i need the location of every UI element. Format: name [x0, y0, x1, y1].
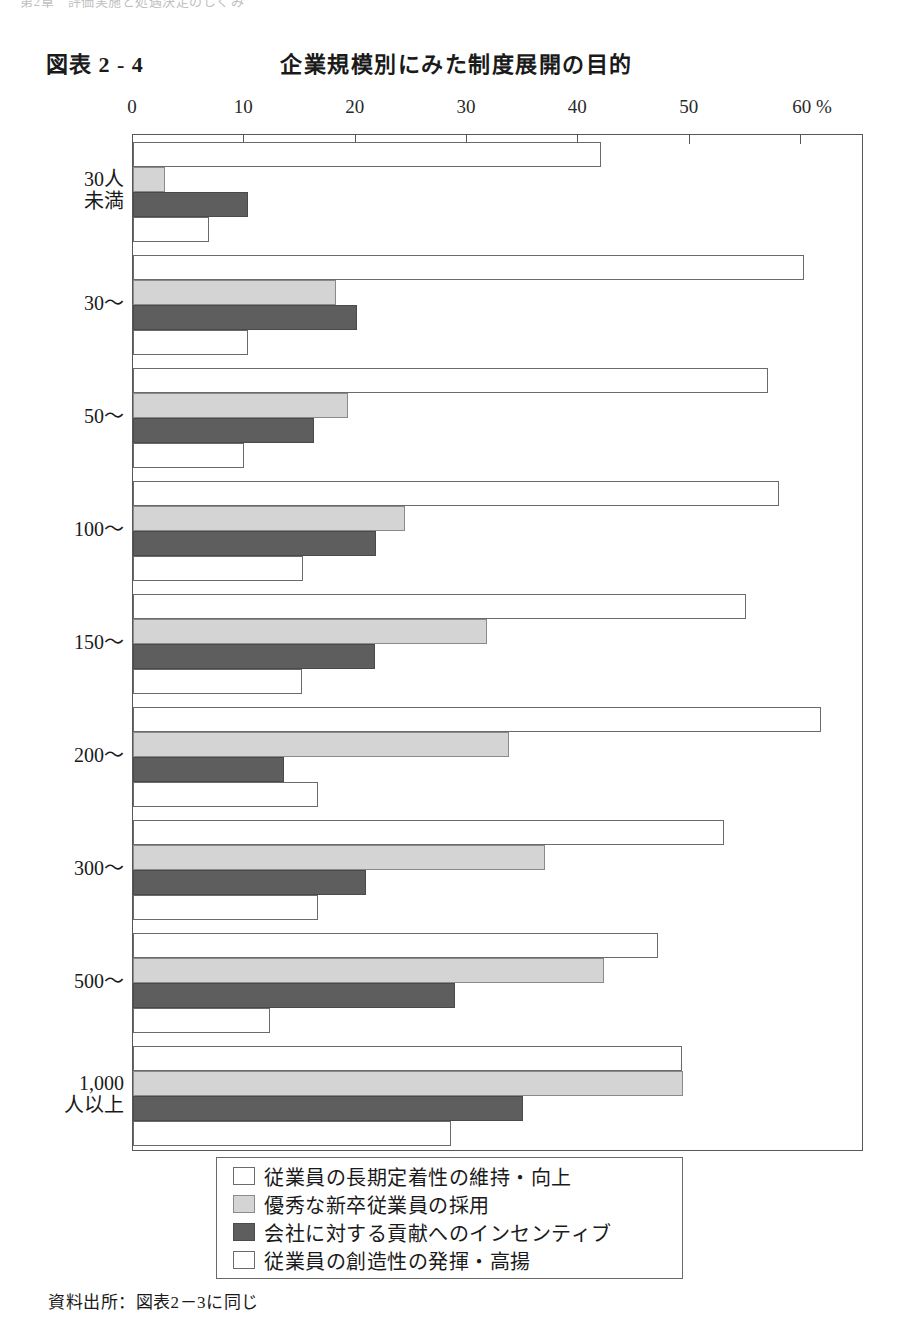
legend-label-1: 優秀な新卒従業員の採用	[264, 1190, 490, 1219]
y-category-label: 150～	[0, 632, 124, 654]
bar-series2-cat0	[133, 192, 248, 217]
bar-series3-cat6	[133, 895, 318, 920]
bar-chart: 0102030405060 % 30人 未満30～50～100～150～200～…	[0, 96, 913, 1156]
bar-series3-cat4	[133, 669, 302, 694]
x-tick-50: 50	[679, 96, 698, 118]
x-tick-10: 10	[234, 96, 253, 118]
x-tick-0: 0	[127, 96, 137, 118]
x-tick-60: 60 %	[792, 96, 832, 118]
legend-item-3: 従業員の創造性の発揮・高揚	[233, 1246, 682, 1274]
legend-label-0: 従業員の長期定着性の維持・向上	[264, 1162, 572, 1191]
bar-series2-cat3	[133, 531, 376, 556]
category-label-group: 200～	[0, 699, 124, 812]
tick-mark-60	[800, 135, 801, 144]
x-tick-30: 30	[457, 96, 476, 118]
bar-series0-cat5	[133, 707, 821, 732]
bar-series2-cat6	[133, 870, 366, 895]
bar-series0-cat4	[133, 594, 746, 619]
bar-series3-cat2	[133, 443, 244, 468]
y-category-label: 50～	[0, 406, 124, 428]
bar-series2-cat7	[133, 983, 455, 1008]
legend-item-1: 優秀な新卒従業員の採用	[233, 1190, 682, 1218]
x-tick-40: 40	[568, 96, 587, 118]
bar-series3-cat5	[133, 782, 318, 807]
bar-series1-cat5	[133, 732, 509, 757]
bar-series2-cat8	[133, 1096, 523, 1121]
y-category-label: 1,000 人以上	[0, 1073, 124, 1116]
legend-label-2: 会社に対する貢献へのインセンティブ	[264, 1218, 612, 1247]
category-label-group: 50～	[0, 360, 124, 473]
legend-item-0: 従業員の長期定着性の維持・向上	[233, 1162, 682, 1190]
page-title: 企業規模別にみた制度展開の目的	[0, 46, 913, 78]
y-category-label: 200～	[0, 745, 124, 767]
bar-series1-cat4	[133, 619, 487, 644]
x-tick-20: 20	[345, 96, 364, 118]
running-header: 第2章 評価実施と処遇決定のしくみ	[20, 0, 244, 10]
figure-title-row: 図表 2 - 4 企業規模別にみた制度展開の目的	[0, 46, 913, 80]
legend-swatch-icon-2	[233, 1223, 255, 1241]
bar-series1-cat8	[133, 1071, 683, 1096]
category-label-group: 30～	[0, 247, 124, 360]
bar-series1-cat0	[133, 167, 165, 192]
bar-series0-cat7	[133, 933, 658, 958]
y-category-label: 300～	[0, 858, 124, 880]
category-label-group: 150～	[0, 586, 124, 699]
source-note: 資料出所：図表2－3に同じ	[48, 1288, 259, 1313]
category-label-group: 300～	[0, 812, 124, 925]
bar-series0-cat1	[133, 255, 804, 280]
y-category-label: 30～	[0, 293, 124, 315]
bar-series1-cat7	[133, 958, 604, 983]
bar-series0-cat6	[133, 820, 724, 845]
y-category-label: 500～	[0, 971, 124, 993]
tick-mark-50	[689, 135, 690, 144]
category-label-group: 500～	[0, 925, 124, 1038]
bar-series3-cat3	[133, 556, 303, 581]
legend-swatch-icon-0	[233, 1167, 255, 1185]
plot-area	[132, 134, 863, 1151]
bar-series2-cat2	[133, 418, 314, 443]
bar-series2-cat1	[133, 305, 357, 330]
bar-series0-cat2	[133, 368, 768, 393]
bar-series3-cat0	[133, 217, 209, 242]
bar-series1-cat1	[133, 280, 336, 305]
bar-series0-cat3	[133, 481, 779, 506]
category-label-group: 1,000 人以上	[0, 1038, 124, 1151]
bar-series3-cat7	[133, 1008, 270, 1033]
bar-series0-cat8	[133, 1046, 682, 1071]
bar-series0-cat0	[133, 142, 601, 167]
bar-series1-cat6	[133, 845, 545, 870]
bar-series2-cat5	[133, 757, 284, 782]
legend-label-3: 従業員の創造性の発揮・高揚	[264, 1246, 531, 1275]
chart-legend: 従業員の長期定着性の維持・向上優秀な新卒従業員の採用会社に対する貢献へのインセン…	[216, 1157, 683, 1279]
bar-series3-cat1	[133, 330, 248, 355]
y-category-label: 30人 未満	[0, 169, 124, 212]
legend-swatch-icon-1	[233, 1195, 255, 1213]
bar-series2-cat4	[133, 644, 375, 669]
legend-item-2: 会社に対する貢献へのインセンティブ	[233, 1218, 682, 1246]
category-label-group: 30人 未満	[0, 134, 124, 247]
bar-series1-cat2	[133, 393, 348, 418]
category-label-group: 100～	[0, 473, 124, 586]
y-category-label: 100～	[0, 519, 124, 541]
legend-swatch-icon-3	[233, 1251, 255, 1269]
bar-series3-cat8	[133, 1121, 451, 1146]
bar-series1-cat3	[133, 506, 405, 531]
